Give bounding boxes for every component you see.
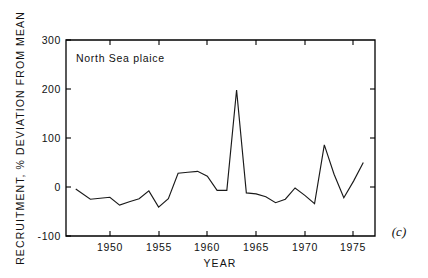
figure-panel-c: 300 200 100 0 -100 1950 1955 1960 1965 1… [0, 0, 428, 278]
x-axis-ticks-top [110, 40, 353, 45]
y-tick-label-200: 200 [42, 83, 61, 95]
x-tick-label-1950: 1950 [97, 241, 123, 253]
series-label: North Sea plaice [76, 52, 165, 64]
y-axis-title: RECRUITMENT, % DEVIATION FROM MEAN [14, 11, 26, 265]
x-tick-label-1955: 1955 [146, 241, 172, 253]
y-tick-label-0: 0 [55, 181, 61, 193]
x-tick-label-1970: 1970 [292, 241, 318, 253]
data-series-line [76, 90, 364, 207]
y-tick-label-neg100: -100 [38, 230, 61, 242]
y-tick-label-300: 300 [42, 34, 61, 46]
panel-label: (c) [392, 224, 406, 239]
x-axis-ticks [110, 231, 353, 236]
x-tick-label-1965: 1965 [243, 241, 269, 253]
x-tick-label-1975: 1975 [340, 241, 366, 253]
y-axis-ticks-right [370, 89, 375, 187]
x-axis-title: YEAR [204, 257, 237, 269]
recruitment-line-chart: 300 200 100 0 -100 1950 1955 1960 1965 1… [0, 0, 428, 278]
plot-frame [66, 40, 375, 236]
y-tick-label-100: 100 [42, 132, 61, 144]
y-axis-ticks [66, 40, 71, 236]
x-tick-label-1960: 1960 [194, 241, 220, 253]
